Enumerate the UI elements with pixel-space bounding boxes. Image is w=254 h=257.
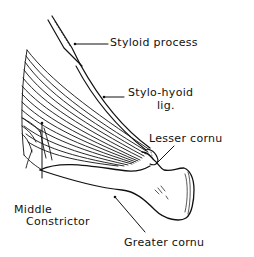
label-stylo-hyoid-ligament-line1: Stylo-hyoid xyxy=(128,87,193,99)
styloid-process xyxy=(48,16,82,66)
label-middle-constrictor-line2: Constrictor xyxy=(26,216,90,228)
middle-constrictor-muscle xyxy=(22,50,150,170)
label-greater-cornu: Greater cornu xyxy=(124,237,204,249)
anatomy-diagram: Styloid process Stylo-hyoid lig. Lesser … xyxy=(0,0,254,257)
label-styloid-process: Styloid process xyxy=(110,37,198,49)
label-lesser-cornu: Lesser cornu xyxy=(149,133,223,145)
label-stylo-hyoid-ligament-line2: lig. xyxy=(157,100,175,112)
stylo-hyoid-ligament xyxy=(76,64,150,150)
